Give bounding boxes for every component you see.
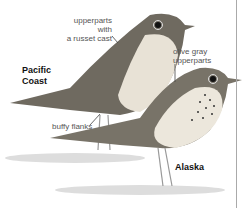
region-line: Pacific — [22, 65, 51, 76]
label-olive-gray: olive gray upperparts — [173, 47, 211, 65]
page-divider — [236, 0, 237, 208]
label-line: upperparts with — [60, 16, 112, 34]
label-line: upperparts — [173, 56, 211, 65]
region-alaska: Alaska — [175, 162, 204, 173]
birds-artwork — [0, 0, 243, 208]
label-upperparts-russet: upperparts with a russet cast — [60, 16, 112, 43]
region-line: Coast — [22, 76, 51, 87]
ground-shadow-pacific — [5, 153, 145, 163]
region-pacific-coast: Pacific Coast — [22, 65, 51, 87]
leader-russet — [112, 36, 118, 43]
label-line: a russet cast — [60, 34, 112, 43]
label-line: olive gray — [173, 47, 211, 56]
bird-illustration: upperparts with a russet cast olive gray… — [0, 0, 243, 208]
label-buffy-flanks: buffy flanks — [52, 122, 92, 131]
ground-shadow-alaska — [55, 185, 225, 195]
